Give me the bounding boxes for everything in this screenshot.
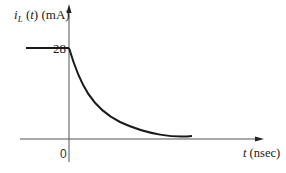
x-axis-arrow-icon xyxy=(255,137,264,142)
current-decay-chart: iL (t) (mA) 28 0 t (nsec) xyxy=(0,0,286,173)
x-tick-0: 0 xyxy=(60,148,67,160)
y-label-units: ) (mA) xyxy=(34,7,70,22)
x-label-units: (nsec) xyxy=(246,146,280,160)
y-tick-28: 28 xyxy=(53,42,66,55)
decay-curve xyxy=(69,48,192,137)
y-axis-label: iL (t) (mA) xyxy=(14,8,70,24)
x-axis-label: t (nsec) xyxy=(243,147,280,160)
